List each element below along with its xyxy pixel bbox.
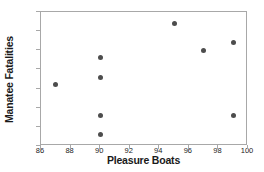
data-point xyxy=(98,113,103,118)
x-tick-mark xyxy=(217,145,218,149)
x-axis-title: Pleasure Boats xyxy=(40,154,247,166)
data-point xyxy=(98,132,103,137)
data-point xyxy=(172,21,177,26)
x-tick-mark xyxy=(247,145,248,149)
data-point xyxy=(231,40,236,45)
x-tick-mark xyxy=(129,145,130,149)
x-tick-mark xyxy=(40,145,41,149)
plot-area xyxy=(40,11,247,145)
scatter-plot-figure: Manatee Fatalities Pleasure Boats 657075… xyxy=(0,0,264,172)
data-point xyxy=(98,55,103,60)
data-point xyxy=(231,113,236,118)
x-tick-mark xyxy=(188,145,189,149)
x-tick-mark xyxy=(99,145,100,149)
x-tick-mark xyxy=(158,145,159,149)
y-axis-title: Manatee Fatalities xyxy=(2,7,16,152)
data-point xyxy=(98,75,103,80)
data-point xyxy=(201,48,206,53)
x-tick-mark xyxy=(70,145,71,149)
data-point xyxy=(53,82,58,87)
